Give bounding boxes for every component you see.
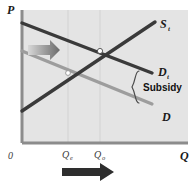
- equilibrium-point-original: [66, 71, 71, 76]
- supply-curve-label: S: [160, 17, 167, 31]
- tick-label-qo: Q: [94, 149, 102, 160]
- tick-label-qe-subscript: e: [70, 154, 73, 161]
- supply-demand-subsidy-chart: P Q 0 S t D t D Subsidy Q e Q o: [0, 0, 194, 186]
- subsidy-label: Subsidy: [143, 82, 182, 93]
- y-axis-label: P: [7, 3, 15, 17]
- tick-label-qe: Q: [62, 149, 70, 160]
- demand-curve-label: D: [161, 110, 171, 124]
- demand-subsidy-curve-label: D: [157, 65, 167, 79]
- figure-container: P Q 0 S t D t D Subsidy Q e Q o: [0, 0, 194, 186]
- origin-label: 0: [8, 150, 13, 161]
- equilibrium-point-new: [97, 48, 102, 53]
- tick-label-qo-subscript: o: [102, 154, 106, 161]
- x-axis-label: Q: [180, 149, 189, 163]
- quantity-increase-arrow: [62, 163, 114, 181]
